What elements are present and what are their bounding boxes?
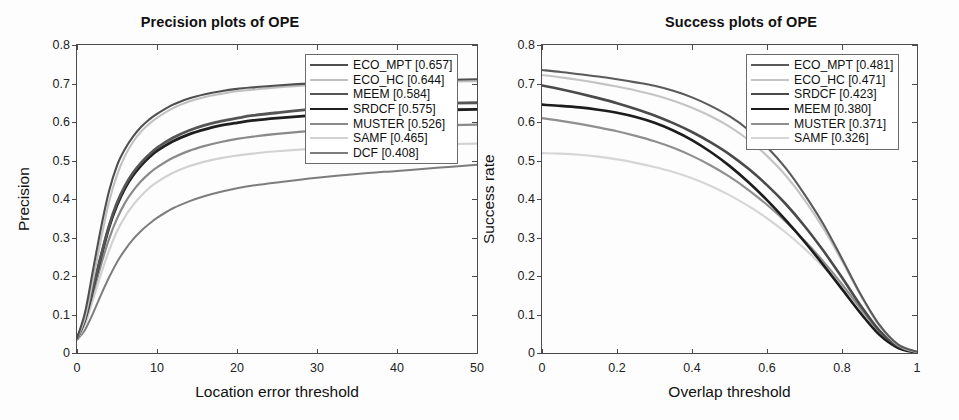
- legend-line-swatch-icon: [310, 123, 348, 125]
- y-tick: [72, 276, 77, 277]
- y-tick-label: 0: [528, 346, 535, 360]
- y-tick-right: [912, 122, 917, 123]
- legend-item-label: SAMF [0.326]: [794, 132, 869, 144]
- y-tick-right: [912, 161, 917, 162]
- x-tick-label: 1: [914, 361, 921, 375]
- y-tick-right: [472, 122, 477, 123]
- legend-item-label: MEEM [0.584]: [353, 88, 430, 100]
- y-tick: [537, 84, 542, 85]
- y-tick-right: [472, 161, 477, 162]
- y-tick-right: [912, 353, 917, 354]
- legend-item-srdcf[interactable]: SRDCF [0.575]: [310, 102, 452, 117]
- legend-item-label: SRDCF [0.575]: [353, 103, 436, 115]
- success-y-axis-label: Success rate: [480, 154, 498, 244]
- y-tick-right: [912, 84, 917, 85]
- x-tick-top: [237, 45, 238, 50]
- y-tick-right: [912, 315, 917, 316]
- x-tick: [617, 349, 618, 353]
- y-tick-label: 0: [63, 346, 70, 360]
- legend-item-eco_mpt[interactable]: ECO_MPT [0.481]: [751, 58, 893, 73]
- success-legend: ECO_MPT [0.481]ECO_HC [0.471]SRDCF [0.42…: [746, 54, 899, 150]
- success-plot-panel: Success plots of OPE Overlap threshold S…: [479, 0, 959, 420]
- y-tick: [537, 122, 542, 123]
- x-tick: [157, 349, 158, 353]
- y-tick: [537, 199, 542, 200]
- legend-item-label: ECO_MPT [0.481]: [794, 59, 893, 71]
- legend-line-swatch-icon: [751, 93, 789, 95]
- x-tick-top: [477, 45, 478, 50]
- figure-canvas: Precision plots of OPE Location error th…: [0, 0, 959, 420]
- legend-line-swatch-icon: [310, 64, 348, 66]
- y-tick: [72, 238, 77, 239]
- legend-item-label: ECO_MPT [0.657]: [353, 59, 452, 71]
- precision-x-axis-label: Location error threshold: [77, 383, 477, 401]
- legend-line-swatch-icon: [310, 137, 348, 139]
- x-tick-label: 0.6: [758, 361, 775, 375]
- legend-item-dcf[interactable]: DCF [0.408]: [310, 146, 452, 161]
- y-tick-right: [912, 199, 917, 200]
- y-tick: [537, 276, 542, 277]
- y-tick-right: [472, 238, 477, 239]
- x-tick-top: [157, 45, 158, 50]
- success-plot-axes: Overlap threshold Success rate ECO_MPT […: [541, 44, 918, 354]
- legend-line-swatch-icon: [751, 123, 789, 125]
- legend-item-eco_hc[interactable]: ECO_HC [0.644]: [310, 73, 452, 88]
- legend-item-label: DCF [0.408]: [353, 147, 419, 159]
- y-tick: [72, 199, 77, 200]
- x-tick-label: 40: [390, 361, 404, 375]
- y-tick: [72, 84, 77, 85]
- x-tick: [237, 349, 238, 353]
- legend-item-label: MUSTER [0.526]: [353, 118, 445, 130]
- y-tick: [72, 122, 77, 123]
- y-tick-label: 0.4: [518, 192, 535, 206]
- x-tick-top: [842, 45, 843, 50]
- curve-samf: [542, 153, 917, 352]
- x-tick-top: [917, 45, 918, 50]
- legend-item-samf[interactable]: SAMF [0.465]: [310, 131, 452, 146]
- x-tick-label: 0.4: [683, 361, 700, 375]
- y-tick-label: 0.7: [53, 77, 70, 91]
- legend-line-swatch-icon: [751, 108, 789, 110]
- legend-item-muster[interactable]: MUSTER [0.371]: [751, 116, 893, 131]
- legend-item-label: SAMF [0.465]: [353, 132, 428, 144]
- x-tick: [767, 349, 768, 353]
- y-tick-label: 0.5: [518, 154, 535, 168]
- legend-item-meem[interactable]: MEEM [0.380]: [751, 102, 893, 117]
- legend-item-samf[interactable]: SAMF [0.326]: [751, 131, 893, 146]
- success-x-axis-label: Overlap threshold: [542, 383, 917, 401]
- precision-plot-axes: Location error threshold Precision ECO_M…: [76, 44, 478, 354]
- legend-item-meem[interactable]: MEEM [0.584]: [310, 87, 452, 102]
- y-tick-right: [472, 199, 477, 200]
- y-tick-label: 0.5: [53, 154, 70, 168]
- legend-line-swatch-icon: [310, 93, 348, 95]
- legend-item-label: SRDCF [0.423]: [794, 88, 877, 100]
- x-tick: [477, 349, 478, 353]
- y-tick-right: [912, 238, 917, 239]
- legend-item-muster[interactable]: MUSTER [0.526]: [310, 116, 452, 131]
- precision-plot-panel: Precision plots of OPE Location error th…: [0, 0, 480, 420]
- curve-samf: [77, 144, 477, 340]
- y-tick-label: 0.6: [53, 115, 70, 129]
- legend-item-eco_mpt[interactable]: ECO_MPT [0.657]: [310, 58, 452, 73]
- y-tick-label: 0.7: [518, 77, 535, 91]
- y-tick-label: 0.8: [53, 38, 70, 52]
- precision-plot-title: Precision plots of OPE: [0, 14, 460, 30]
- y-tick-right: [472, 353, 477, 354]
- y-tick-right: [472, 315, 477, 316]
- x-tick-top: [617, 45, 618, 50]
- y-tick-right: [912, 276, 917, 277]
- curve-dcf: [77, 165, 477, 340]
- y-tick: [537, 353, 542, 354]
- y-tick-label: 0.1: [53, 308, 70, 322]
- legend-line-swatch-icon: [310, 152, 348, 154]
- y-tick: [537, 238, 542, 239]
- x-tick-label: 30: [310, 361, 324, 375]
- legend-line-swatch-icon: [310, 108, 348, 110]
- legend-line-swatch-icon: [751, 64, 789, 66]
- y-tick: [537, 161, 542, 162]
- x-tick: [542, 349, 543, 353]
- x-tick: [397, 349, 398, 353]
- legend-item-eco_hc[interactable]: ECO_HC [0.471]: [751, 73, 893, 88]
- legend-item-label: MUSTER [0.371]: [794, 118, 886, 130]
- legend-item-srdcf[interactable]: SRDCF [0.423]: [751, 87, 893, 102]
